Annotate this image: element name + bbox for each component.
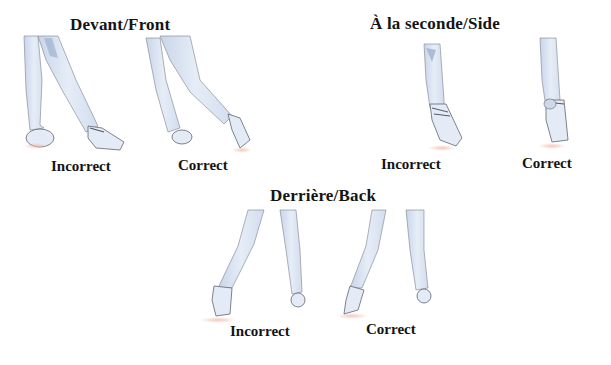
front-incorrect-legs-figure [24,36,124,150]
front-incorrect-label: Incorrect [51,158,111,175]
back-correct-label: Correct [366,321,416,338]
back-incorrect-label: Incorrect [230,323,290,340]
front-correct-legs-figure [146,36,252,153]
back-correct-legs-figure [336,210,431,319]
section-title-side: À la seconde/Side [370,14,500,34]
side-correct-label: Correct [522,155,572,172]
side-correct-leg-figure [538,38,568,149]
section-title-back: Derrière/Back [270,186,376,206]
front-correct-label: Correct [178,157,228,174]
back-incorrect-legs-figure [200,210,305,323]
section-title-front: Devant/Front [70,15,170,35]
side-incorrect-leg-figure [424,44,462,151]
side-incorrect-label: Incorrect [381,156,441,173]
illustration-canvas [0,0,611,365]
